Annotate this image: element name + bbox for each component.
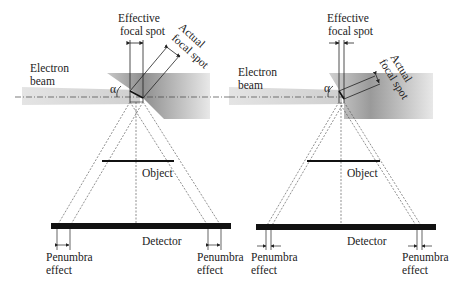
penumbra-right-label-2: effect xyxy=(402,264,429,276)
detector xyxy=(256,224,436,230)
angle-label: α xyxy=(324,82,330,94)
electron-beam xyxy=(22,87,140,105)
penumbra-left-label: Penumbra xyxy=(46,251,93,263)
effective-focal-spot-label-2: focal spot xyxy=(120,25,166,38)
effective-focal-spot-label: Effective xyxy=(327,12,369,24)
penumbra-left-label: Penumbra xyxy=(251,251,298,263)
electron-beam-label-2: beam xyxy=(238,79,263,91)
electron-beam-label: Electron xyxy=(238,66,277,78)
object-label: Object xyxy=(142,167,173,180)
angle-label: α xyxy=(110,83,116,95)
actual-spot-arrow xyxy=(168,48,180,57)
penumbra-left-label-2: effect xyxy=(251,264,278,276)
object-label: Object xyxy=(347,167,378,180)
anode xyxy=(329,73,433,119)
electron-beam-label-2: beam xyxy=(30,75,55,87)
xray-cone xyxy=(266,102,422,227)
effective-focal-spot-label-2: focal spot xyxy=(328,25,374,38)
xray-cone xyxy=(57,102,221,226)
penumbra-markers xyxy=(257,230,432,250)
detector-label: Detector xyxy=(347,235,387,247)
left-panel: Effective focal spot Actual focal spot E… xyxy=(15,12,244,276)
effective-focal-spot-label: Effective xyxy=(118,12,160,24)
electron-beam-label: Electron xyxy=(30,62,69,74)
penumbra-right-label-2: effect xyxy=(197,264,224,276)
right-panel: Effective focal spot Actual focal spot E… xyxy=(229,12,449,276)
detector xyxy=(51,223,231,229)
penumbra-markers xyxy=(57,229,221,250)
penumbra-right-label: Penumbra xyxy=(402,251,449,263)
penumbra-right-label: Penumbra xyxy=(197,251,244,263)
penumbra-left-label-2: effect xyxy=(46,264,73,276)
focal-spot-diagram: Effective focal spot Actual focal spot E… xyxy=(0,0,459,290)
detector-label: Detector xyxy=(142,235,182,247)
